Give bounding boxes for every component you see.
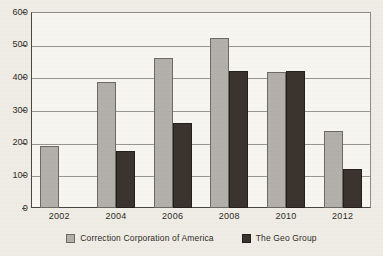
legend-item-0: Correction Corporation of America [66, 233, 213, 243]
y-tick-mark-400 [22, 77, 26, 78]
x-tick-label-2008: 2008 [204, 211, 254, 221]
bar-group-2010 [258, 12, 315, 208]
bar-2004-series-1 [116, 151, 135, 208]
x-axis: 200220042006200820102012 [31, 211, 371, 225]
bar-group-2008 [201, 12, 258, 208]
legend-label-0: Correction Corporation of America [80, 233, 213, 243]
bar-group-2006 [144, 12, 201, 208]
bar-2004-series-0 [97, 82, 116, 208]
legend-item-1: The Geo Group [242, 233, 317, 243]
legend-swatch-dark [242, 234, 251, 243]
bar-2010-series-0 [267, 72, 286, 208]
bar-2012-series-1 [343, 169, 362, 208]
legend-swatch-gray [66, 234, 75, 243]
bar-2006-series-0 [154, 58, 173, 208]
chart-legend: Correction Corporation of AmericaThe Geo… [0, 233, 383, 243]
y-axis: 0100200300400500600 [0, 12, 28, 208]
bar-chart: 0100200300400500600 20022004200620082010… [0, 0, 383, 256]
x-tick-label-2010: 2010 [261, 211, 311, 221]
bar-2002-series-0 [40, 146, 59, 208]
x-tick-label-2002: 2002 [34, 211, 84, 221]
bar-2010-series-1 [286, 71, 305, 208]
bar-group-2004 [88, 12, 145, 208]
x-tick-label-2006: 2006 [148, 211, 198, 221]
y-tick-mark-500 [22, 45, 26, 46]
x-tick-label-2004: 2004 [91, 211, 141, 221]
bars-layer [31, 12, 371, 208]
bar-2008-series-0 [210, 38, 229, 208]
y-tick-mark-600 [22, 12, 26, 13]
bar-2006-series-1 [173, 123, 192, 208]
y-tick-mark-200 [22, 143, 26, 144]
y-tick-mark-300 [22, 110, 26, 111]
y-tick-mark-0 [22, 208, 26, 209]
bar-group-2012 [314, 12, 371, 208]
legend-label-1: The Geo Group [256, 233, 317, 243]
y-tick-mark-100 [22, 175, 26, 176]
bar-2008-series-1 [229, 71, 248, 208]
x-tick-label-2012: 2012 [318, 211, 368, 221]
bar-2012-series-0 [324, 131, 343, 208]
bar-group-2002 [31, 12, 88, 208]
